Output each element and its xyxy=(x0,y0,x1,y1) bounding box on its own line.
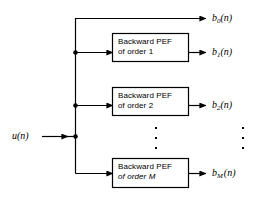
block-order-1-line1: Backward PEF xyxy=(118,37,172,47)
output-label-b2: b2(n) xyxy=(212,99,232,112)
block-order-1-line2: of order 1 xyxy=(118,47,172,57)
block-order-M-line2: of order M xyxy=(118,172,172,182)
output-label-b1: b1(n) xyxy=(212,46,232,59)
output-label-b0: b0(n) xyxy=(212,12,232,25)
output-b0-arg: (n) xyxy=(221,12,233,23)
junction-dot-2 xyxy=(73,103,78,108)
output-b2-arg: (n) xyxy=(221,99,233,110)
blocks-vertical-ellipsis-icon xyxy=(154,127,157,149)
block-order-1-label: Backward PEF of order 1 xyxy=(118,37,172,57)
junction-dot-1 xyxy=(73,50,78,55)
figure-canvas: u(n) Backward PEF of order 1 Backward PE… xyxy=(0,0,271,204)
input-label-arg: (n) xyxy=(17,130,29,141)
block-order-2-line1: Backward PEF xyxy=(118,91,172,101)
block-order-2-label: Backward PEF of order 2 xyxy=(118,91,172,111)
block-order-2-line2: of order 2 xyxy=(118,101,172,111)
output-bM-arg: (n) xyxy=(224,167,236,178)
output-bM-sub: M xyxy=(217,172,223,180)
block-order-M-label: Backward PEF of order M xyxy=(118,162,172,182)
block-order-M-line1: Backward PEF xyxy=(118,162,172,172)
input-label-u-n: u(n) xyxy=(12,130,29,141)
junction-dot-input xyxy=(73,134,78,139)
output-b1-arg: (n) xyxy=(221,46,233,57)
output-label-bM: bM(n) xyxy=(212,167,236,180)
outputs-vertical-ellipsis-icon xyxy=(241,127,244,149)
